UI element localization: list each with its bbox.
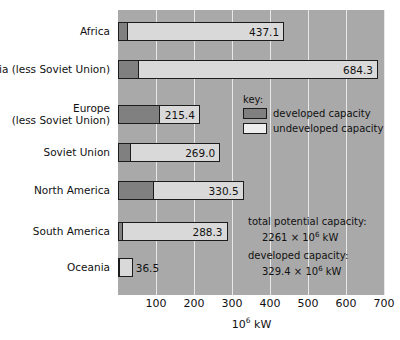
chart-figure: AfricaAsia (less Soviet Union)Europe(les…	[0, 0, 400, 340]
annotation-value-unit: kW	[319, 232, 338, 243]
bar-segment-developed	[118, 143, 131, 162]
y-axis-label: Africa	[80, 25, 110, 37]
annotation-times-symbol: ×	[287, 232, 302, 243]
bar-row: 269.0	[118, 143, 220, 162]
bar-segment-developed	[118, 181, 154, 200]
legend: key: developed capacityundeveloped capac…	[243, 94, 383, 138]
bar-segment-undeveloped: 288.3	[123, 222, 228, 241]
x-axis-title-exponent: 6	[246, 316, 251, 325]
bar-row: 684.3	[118, 60, 378, 79]
bar-segment-undeveloped: 215.4	[160, 105, 200, 124]
y-axis-label-line: Europe	[12, 102, 110, 114]
x-tick-label-100: 100	[146, 297, 167, 310]
legend-item: undeveloped capacity	[243, 123, 383, 134]
legend-item: developed capacity	[243, 108, 383, 119]
bar-segment-undeveloped: 36.5	[120, 258, 133, 277]
y-axis-label: Asia (less Soviet Union)	[0, 63, 110, 75]
legend-item-label: developed capacity	[273, 108, 371, 119]
x-tick-label-200: 200	[184, 297, 205, 310]
x-axis-title-unit: kW	[254, 318, 271, 331]
annotation-value-base: 10	[302, 232, 315, 243]
bar-value-label: 269.0	[185, 147, 215, 158]
annotation-heading: total potential capacity:	[248, 216, 367, 229]
x-tick-label-400: 400	[260, 297, 281, 310]
x-tick-label-300: 300	[222, 297, 243, 310]
bar-row: 330.5	[118, 181, 244, 200]
bar-segment-undeveloped: 437.1	[128, 22, 284, 41]
annotation-block: total potential capacity:2261 × 106 kWde…	[248, 216, 367, 285]
bar-value-label: 288.3	[192, 226, 222, 237]
y-axis-label: Soviet Union	[44, 146, 110, 158]
bar-value-label: 437.1	[249, 26, 279, 37]
annotation-value-number: 329.4	[262, 266, 291, 277]
undev-swatch	[243, 123, 267, 134]
y-axis-labels: AfricaAsia (less Soviet Union)Europe(les…	[0, 10, 114, 295]
annotation-heading: developed capacity:	[248, 250, 367, 263]
bar-value-label: 215.4	[165, 109, 195, 120]
bar-value-label: 330.5	[209, 185, 239, 196]
annotation-value: 329.4 × 106 kW	[248, 263, 367, 279]
x-tick-label-600: 600	[336, 297, 357, 310]
y-axis-label-line: Africa	[80, 25, 110, 37]
legend-item-label: undeveloped capacity	[273, 123, 383, 134]
x-axis-ticks: 100200300400500600700	[118, 297, 385, 313]
y-axis-label: North America	[34, 184, 110, 196]
bar-segment-developed	[118, 22, 128, 41]
bar-row: 36.5	[118, 258, 133, 277]
y-axis-label-line: Asia (less Soviet Union)	[0, 63, 110, 75]
dev-swatch	[243, 108, 267, 119]
gridline-300	[232, 10, 233, 295]
annotation-value-number: 2261	[262, 232, 287, 243]
bar-segment-undeveloped: 684.3	[139, 60, 378, 79]
bar-row: 288.3	[118, 222, 228, 241]
annotation-times-symbol: ×	[291, 266, 306, 277]
x-tick-label-700: 700	[374, 297, 395, 310]
annotation: developed capacity:329.4 × 106 kW	[248, 250, 367, 278]
bar-row: 215.4	[118, 105, 200, 124]
x-axis-title: 106 kW	[118, 316, 385, 331]
annotation-value: 2261 × 106 kW	[248, 229, 367, 245]
y-axis-label-line: Soviet Union	[44, 146, 110, 158]
bar-segment-developed	[118, 60, 139, 79]
bar-segment-developed	[118, 105, 160, 124]
legend-entries: developed capacityundeveloped capacity	[243, 108, 383, 134]
gridline-700	[384, 10, 385, 295]
y-axis-label: South America	[33, 225, 110, 237]
annotation-value-unit: kW	[323, 266, 342, 277]
bar-row: 437.1	[118, 22, 284, 41]
annotation: total potential capacity:2261 × 106 kW	[248, 216, 367, 244]
y-axis-label-line: North America	[34, 184, 110, 196]
y-axis-label: Oceania	[67, 261, 110, 273]
bar-value-label: 684.3	[343, 64, 373, 75]
x-axis-title-base: 10	[232, 318, 246, 331]
y-axis-label-line: (less Soviet Union)	[12, 114, 110, 126]
annotation-value-base: 10	[305, 266, 318, 277]
y-axis-label-line: South America	[33, 225, 110, 237]
y-axis-label: Europe(less Soviet Union)	[12, 102, 110, 126]
bar-segment-undeveloped: 269.0	[131, 143, 221, 162]
bar-value-label: 36.5	[136, 262, 159, 273]
y-axis-label-line: Oceania	[67, 261, 110, 273]
x-tick-label-500: 500	[298, 297, 319, 310]
bar-segment-undeveloped: 330.5	[154, 181, 243, 200]
legend-title: key:	[243, 94, 383, 105]
